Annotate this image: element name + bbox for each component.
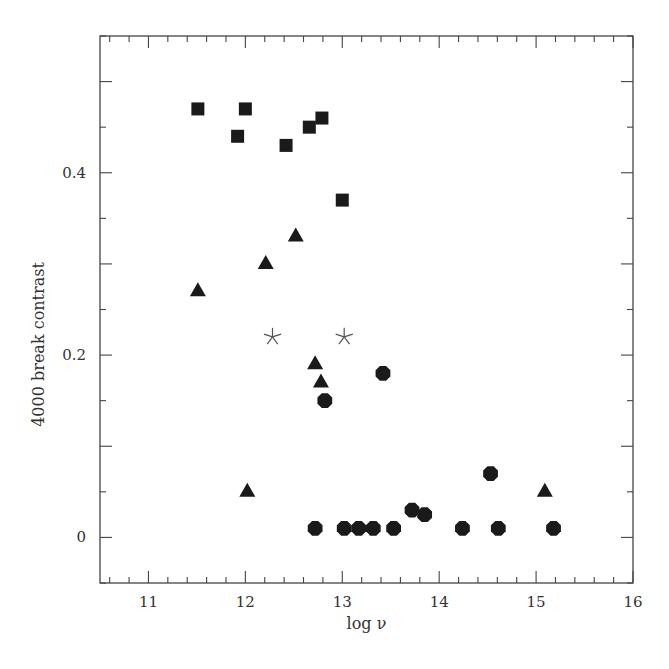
square-marker xyxy=(315,112,328,125)
circle-marker xyxy=(351,521,366,536)
circle-marker xyxy=(376,366,391,381)
x-tick-label: 16 xyxy=(623,593,642,611)
data-markers xyxy=(190,102,561,535)
square-marker xyxy=(191,102,204,115)
star-marker xyxy=(264,328,281,344)
circle-marker xyxy=(546,521,561,536)
circle-marker xyxy=(337,521,352,536)
circle-marker xyxy=(405,503,420,518)
circle-marker xyxy=(317,393,332,408)
star-marker xyxy=(336,328,353,344)
square-marker xyxy=(303,121,316,134)
x-tick-label: 14 xyxy=(430,593,449,611)
series-stars xyxy=(264,328,353,344)
x-tick-label: 11 xyxy=(139,593,158,611)
series-squares xyxy=(191,102,348,206)
triangle-marker xyxy=(313,373,329,387)
triangle-marker xyxy=(190,282,206,296)
x-tick-label: 13 xyxy=(333,593,352,611)
circle-marker xyxy=(308,521,323,536)
square-marker xyxy=(231,130,244,143)
y-tick-label: 0 xyxy=(76,528,86,546)
triangle-marker xyxy=(239,483,255,497)
triangle-marker xyxy=(258,255,274,269)
tick-labels: 11121314151600.20.4 xyxy=(62,164,642,611)
x-tick-label: 12 xyxy=(236,593,255,611)
y-axis-title: 4000 break contrast xyxy=(29,262,48,427)
series-circles xyxy=(308,366,561,536)
square-marker xyxy=(336,194,349,207)
circle-marker xyxy=(366,521,381,536)
y-tick-label: 0.2 xyxy=(62,346,86,364)
circle-marker xyxy=(491,521,506,536)
triangle-marker xyxy=(307,355,323,369)
square-marker xyxy=(239,102,252,115)
square-marker xyxy=(280,139,293,152)
circle-marker xyxy=(455,521,470,536)
triangle-marker xyxy=(288,228,304,242)
circle-marker xyxy=(417,507,432,522)
triangle-marker xyxy=(537,483,553,497)
x-tick-label: 15 xyxy=(527,593,546,611)
plot-frame xyxy=(100,36,633,583)
circle-marker xyxy=(386,521,401,536)
x-axis-title: log ν xyxy=(347,614,387,633)
series-triangles xyxy=(190,228,553,497)
scatter-chart: 11121314151600.20.4 log ν 4000 break con… xyxy=(0,0,669,669)
axis-ticks xyxy=(100,36,633,583)
y-tick-label: 0.4 xyxy=(62,164,86,182)
circle-marker xyxy=(483,466,498,481)
